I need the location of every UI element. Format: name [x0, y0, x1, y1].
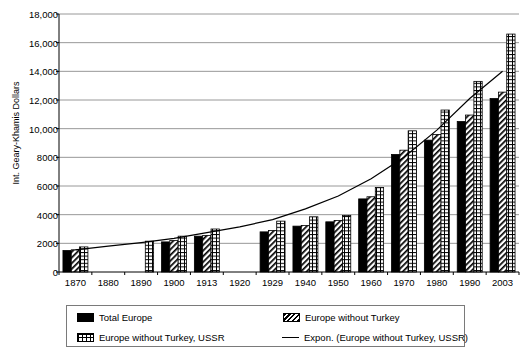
chart-legend: Total Europe Europe without Turkey Europ…	[66, 305, 465, 347]
legend-label-europe-without-turkey: Europe without Turkey	[305, 312, 400, 323]
bar-2003-series-2	[498, 92, 506, 272]
chart-container: Int. Geary-Khamis Dollars 02000400060008…	[0, 0, 530, 353]
legend-item-total-europe[interactable]: Total Europe	[67, 307, 273, 328]
bar-1900-series-2	[170, 240, 178, 272]
x-tick-label: 1950	[328, 277, 349, 288]
x-tick-label: 1960	[361, 277, 382, 288]
bar-1980-series-1	[424, 140, 432, 272]
x-tick-label: 1880	[98, 277, 119, 288]
bar-1980-series-2	[433, 134, 441, 272]
bar-1890-series-3	[145, 241, 153, 272]
x-tick-label: 1940	[295, 277, 316, 288]
bar-1913-series-2	[203, 235, 211, 272]
x-tick-label: 1870	[65, 277, 86, 288]
y-tick-label: 16,000	[29, 37, 58, 48]
legend-row-1: Total Europe Europe without Turkey	[67, 307, 464, 328]
y-tick-label: 18,000	[29, 9, 58, 20]
x-tick-label: 1990	[459, 277, 480, 288]
legend-swatch-grid-icon	[77, 333, 94, 342]
y-tick-label: 4000	[37, 209, 58, 220]
bar-1960-series-2	[367, 197, 375, 272]
y-tick-label: 0	[53, 267, 58, 278]
bar-1900-series-3	[178, 236, 186, 272]
y-tick-label: 14,000	[29, 66, 58, 77]
bar-1870-series-2	[71, 250, 79, 272]
bar-1970-series-2	[400, 150, 408, 272]
y-tick-label: 6000	[37, 181, 58, 192]
plot-area	[0, 0, 530, 353]
x-tick-label: 2003	[492, 277, 513, 288]
legend-swatch-diagonal-icon	[283, 313, 300, 322]
bar-1970-series-1	[392, 154, 400, 272]
bar-1929-series-3	[277, 221, 285, 272]
bar-1940-series-1	[293, 226, 301, 272]
legend-label-europe-without-turkey-ussr: Europe without Turkey, USSR	[99, 332, 225, 343]
legend-label-total-europe: Total Europe	[99, 312, 152, 323]
bar-1900-series-1	[162, 242, 170, 272]
bar-1990-series-3	[474, 81, 482, 272]
y-axis-tick-labels: 0200040006000800010,00012,00014,00016,00…	[0, 0, 58, 353]
bar-2003-series-3	[507, 34, 515, 272]
bar-1913-series-3	[211, 229, 219, 272]
x-tick-label: 1900	[163, 277, 184, 288]
bar-1950-series-3	[342, 215, 350, 272]
bar-1940-series-3	[310, 217, 318, 272]
bar-1960-series-3	[375, 187, 383, 272]
bar-2003-series-1	[490, 99, 498, 272]
y-tick-label: 12,000	[29, 95, 58, 106]
x-tick-label: 1890	[131, 277, 152, 288]
bar-1913-series-1	[194, 236, 202, 272]
bar-1940-series-2	[301, 225, 309, 272]
bar-1950-series-1	[326, 222, 334, 272]
x-tick-label: 1929	[262, 277, 283, 288]
legend-label-exponential-trend: Expon. (Europe without Turkey, USSR)	[304, 332, 468, 343]
y-tick-label: 2000	[37, 238, 58, 249]
bar-1870-series-1	[63, 251, 71, 273]
legend-swatch-solid-icon	[77, 313, 94, 322]
legend-item-europe-without-turkey-ussr[interactable]: Europe without Turkey, USSR	[67, 327, 272, 348]
bar-1960-series-1	[359, 199, 367, 272]
y-tick-label: 8000	[37, 152, 58, 163]
bar-1990-series-2	[466, 115, 474, 272]
bar-1970-series-3	[408, 131, 416, 272]
bar-1870-series-3	[80, 247, 88, 272]
bar-1980-series-3	[441, 110, 449, 272]
x-tick-label: 1920	[229, 277, 250, 288]
x-tick-label: 1913	[196, 277, 217, 288]
legend-item-europe-without-turkey[interactable]: Europe without Turkey	[273, 307, 464, 328]
legend-item-exponential-trend[interactable]: Expon. (Europe without Turkey, USSR)	[272, 327, 464, 348]
legend-swatch-line-icon	[282, 333, 299, 342]
bar-1929-series-2	[268, 230, 276, 272]
legend-row-2: Europe without Turkey, USSR Expon. (Euro…	[67, 327, 464, 348]
bar-1990-series-1	[457, 122, 465, 273]
y-tick-label: 10,000	[29, 123, 58, 134]
x-tick-label: 1980	[426, 277, 447, 288]
bar-1929-series-1	[260, 232, 268, 272]
bar-1950-series-2	[334, 220, 342, 272]
x-tick-label: 1970	[393, 277, 414, 288]
